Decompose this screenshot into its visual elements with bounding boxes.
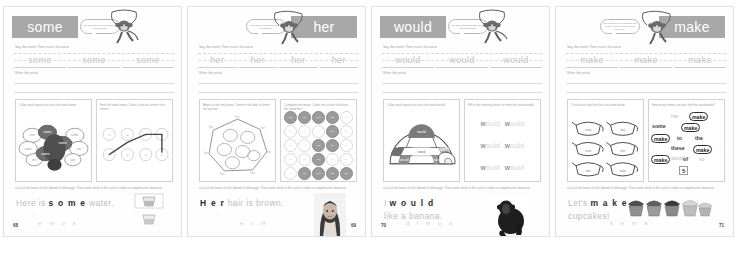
- maze-cell[interactable]: hen: [340, 111, 353, 124]
- activity-art[interactable]: so me na us: [99, 112, 170, 179]
- circle-maze[interactable]: her her her her hen hre ehr reh her hre …: [284, 111, 352, 179]
- activity-box-missing-letters[interactable]: Fill in the missing letters to write the…: [464, 99, 541, 182]
- activity-box-connect-letters[interactable]: Find the word some. Draw a line to conne…: [96, 99, 173, 182]
- trace-cell[interactable]: her: [320, 52, 359, 68]
- activity-art[interactable]: her her her her hen hre ehr reh her hre …: [283, 112, 354, 179]
- trace-cell[interactable]: would: [382, 52, 434, 68]
- maze-cell[interactable]: hre: [340, 153, 353, 166]
- maze-cell[interactable]: her: [326, 167, 339, 180]
- write-line[interactable]: [198, 75, 358, 84]
- bank-word[interactable]: these: [671, 145, 685, 151]
- maze-cell[interactable]: her: [312, 153, 325, 166]
- maze-cell[interactable]: reh: [326, 153, 339, 166]
- activity-box-connect-dots[interactable]: Begin at the red arrow. Connect the dots…: [199, 99, 276, 182]
- write-line[interactable]: [566, 84, 726, 93]
- svg-text:u: u: [145, 152, 147, 157]
- maze-cell[interactable]: her: [298, 167, 311, 180]
- activity-art[interactable]: herher herher herher her: [202, 112, 273, 179]
- trace-cell[interactable]: some: [122, 52, 174, 68]
- bank-word[interactable]: to: [677, 135, 682, 141]
- monkey-mascot-icon: [272, 9, 306, 45]
- maze-cell[interactable]: her: [312, 167, 325, 180]
- activity-art[interactable]: some some some sum come same sun me son: [18, 112, 89, 179]
- maze-cell[interactable]: her: [298, 111, 311, 124]
- trace-cell[interactable]: make: [620, 52, 672, 68]
- write-line[interactable]: [14, 84, 174, 93]
- activity-art[interactable]: makemak makemke maemake: [570, 112, 641, 179]
- write-lines[interactable]: [382, 75, 542, 93]
- bank-word-circled[interactable]: make: [651, 155, 670, 164]
- activity-art[interactable]: would would would would would would: [467, 112, 538, 179]
- maze-cell[interactable]: her: [326, 111, 339, 124]
- cut-out-letters[interactable]: d l w o u: [406, 220, 455, 226]
- maze-cell[interactable]: her: [312, 111, 325, 124]
- trace-word: would: [449, 55, 475, 65]
- maze-cell[interactable]: her: [326, 125, 339, 138]
- trace-cell[interactable]: her: [239, 52, 278, 68]
- bank-word-circled[interactable]: make: [693, 145, 712, 154]
- letter-blank: ould: [486, 120, 500, 127]
- activity-box-maze[interactable]: Complete the maze. Color the circles tha…: [280, 99, 357, 182]
- bank-word-circled[interactable]: make: [681, 123, 700, 132]
- maze-cell[interactable]: erh: [284, 139, 297, 152]
- activity-art[interactable]: her make some make make to the these mak…: [651, 112, 722, 179]
- write-line[interactable]: [198, 84, 358, 93]
- maze-cell[interactable]: hre: [298, 139, 311, 152]
- trace-cell[interactable]: make: [674, 52, 726, 68]
- bank-word-circled[interactable]: make: [651, 134, 670, 143]
- activity-box-circle-tops[interactable]: Circle each top that has the word make.: [567, 99, 644, 182]
- monkey-mascot-icon: [640, 9, 674, 45]
- sentence-solid-word: s o m e: [49, 198, 87, 208]
- bank-word[interactable]: of: [683, 156, 688, 162]
- write-lines[interactable]: [198, 75, 358, 93]
- activity-box-color-spaces[interactable]: Color each space that has the word some.: [15, 99, 92, 182]
- missing-letter-row[interactable]: would would: [467, 120, 538, 127]
- maze-cell[interactable]: ehr: [284, 167, 297, 180]
- bank-word-circled[interactable]: make: [689, 112, 708, 121]
- maze-cell[interactable]: hre: [340, 125, 353, 138]
- cut-out-letters[interactable]: e m o s: [38, 220, 79, 226]
- bank-word[interactable]: some: [652, 123, 666, 129]
- maze-cell[interactable]: her: [326, 139, 339, 152]
- maze-cell[interactable]: erh: [298, 153, 311, 166]
- word-bank[interactable]: her make some make make to the these mak…: [651, 112, 722, 179]
- maze-cell[interactable]: hre: [284, 153, 297, 166]
- missing-letter-row[interactable]: would would: [467, 142, 538, 149]
- trace-cell[interactable]: would: [490, 52, 542, 68]
- bank-word[interactable]: the: [695, 135, 703, 141]
- trace-cell[interactable]: make: [566, 52, 618, 68]
- write-lines[interactable]: [14, 75, 174, 93]
- activity-box-word-bank[interactable]: How many times can you find the word mak…: [648, 99, 725, 182]
- speech-bubble: The letters a-e in make say the long a s…: [600, 19, 640, 34]
- svg-text:would: would: [400, 158, 409, 162]
- write-line[interactable]: [14, 75, 174, 84]
- activity-box-color-spaces[interactable]: Color each space that has the word would…: [383, 99, 460, 182]
- bank-word[interactable]: her: [671, 113, 679, 119]
- missing-letter-rows[interactable]: would would would would would would: [467, 112, 538, 179]
- write-line[interactable]: [382, 75, 542, 84]
- write-lines[interactable]: [566, 75, 726, 93]
- trace-cell[interactable]: some: [14, 52, 66, 68]
- maze-cell[interactable]: her: [340, 167, 353, 180]
- trace-cell[interactable]: would: [436, 52, 488, 68]
- write-line[interactable]: [566, 75, 726, 84]
- trace-cell[interactable]: some: [68, 52, 120, 68]
- missing-letter-row[interactable]: would would: [467, 164, 538, 171]
- bank-word[interactable]: so: [699, 156, 704, 162]
- maze-cell[interactable]: ehr: [340, 139, 353, 152]
- activity-art[interactable]: would would would wood could wold: [386, 112, 457, 179]
- maze-cell[interactable]: her: [284, 111, 297, 124]
- maze-cell[interactable]: hre: [284, 125, 297, 138]
- cut-out-letters[interactable]: e r H: [240, 220, 268, 226]
- girl-photo: [314, 193, 346, 237]
- maze-cell[interactable]: her: [312, 139, 325, 152]
- write-line[interactable]: [382, 84, 542, 93]
- maze-cell[interactable]: reh: [312, 125, 325, 138]
- trace-cell[interactable]: her: [198, 52, 237, 68]
- maze-cell[interactable]: ehr: [298, 125, 311, 138]
- cut-out-letters[interactable]: k e m a: [610, 220, 651, 226]
- svg-text:mke: mke: [620, 149, 625, 153]
- trace-cell[interactable]: her: [279, 52, 318, 68]
- answer-count[interactable]: 5: [679, 166, 688, 175]
- svg-text:could: could: [395, 149, 403, 153]
